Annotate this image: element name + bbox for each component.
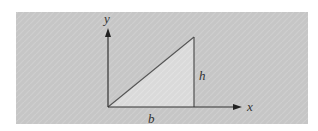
base-label: b (148, 111, 155, 126)
triangle-diagram: y x h b (0, 0, 318, 131)
y-axis-label: y (102, 11, 110, 26)
x-axis-label: x (246, 99, 253, 114)
diagram-stage: y x h b (0, 0, 318, 131)
height-label: h (199, 68, 206, 83)
